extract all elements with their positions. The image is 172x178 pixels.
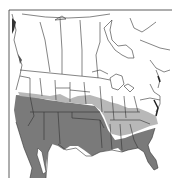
new-england-coast (158, 76, 160, 82)
vancouver-island (18, 54, 22, 64)
range-map (0, 0, 172, 178)
map-svg (0, 0, 172, 178)
atlantic-coast (154, 100, 158, 116)
core-range-area (14, 95, 158, 178)
